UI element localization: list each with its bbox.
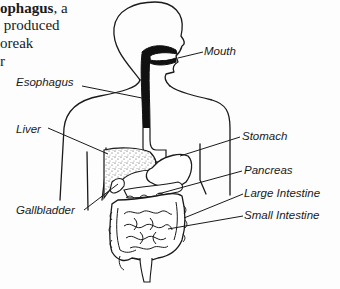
label-pancreas: Pancreas <box>244 164 293 177</box>
leader-esophagus <box>82 86 142 98</box>
label-esophagus: Esophagus <box>16 76 74 89</box>
leader-liver <box>48 128 108 154</box>
diagram-page: ophagus, a produced oreak r <box>0 0 340 289</box>
leader-large-intestine <box>184 194 243 218</box>
leader-mouth <box>178 52 203 58</box>
label-large-intestine: Large Intestine <box>244 187 320 200</box>
leader-stomach <box>180 137 240 156</box>
label-small-intestine: Small Intestine <box>244 209 319 222</box>
label-gallbladder: Gallbladder <box>16 204 75 217</box>
label-stomach: Stomach <box>242 130 287 143</box>
torso-left-outline <box>60 80 140 200</box>
rectum <box>140 258 152 282</box>
esophagus-tube <box>141 54 150 128</box>
label-mouth: Mouth <box>204 45 236 58</box>
digestive-system-figure <box>0 0 340 289</box>
label-liver: Liver <box>16 123 41 136</box>
